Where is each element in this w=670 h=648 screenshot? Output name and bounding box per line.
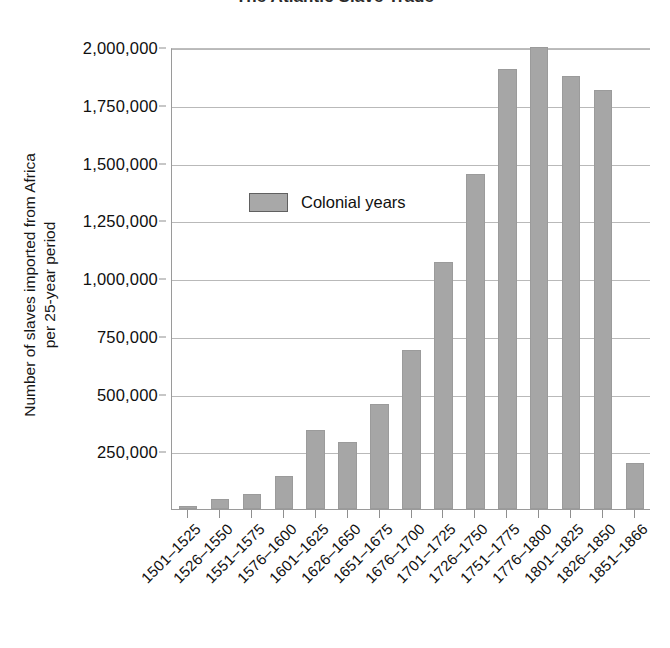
x-axis-tick-mark [634, 510, 635, 518]
x-axis-tick-mark [315, 510, 316, 518]
y-axis-tick-mark [159, 221, 166, 222]
chart-legend: Colonial years [249, 193, 406, 212]
y-axis-tick-mark [159, 452, 166, 453]
x-axis-tick-mark [442, 510, 443, 518]
x-axis-tick-mark [187, 510, 188, 518]
bar [466, 174, 485, 509]
y-axis-tick-label: 1,750,000 [83, 96, 158, 115]
bar [243, 494, 262, 509]
y-axis-tick-label: 500,000 [97, 385, 158, 404]
y-axis-tick-label: 1,000,000 [83, 270, 158, 289]
bar [306, 430, 325, 509]
x-axis-tick-mark [538, 510, 539, 518]
bar [594, 90, 613, 509]
x-axis-tick-mark [379, 510, 380, 518]
x-axis-tick-mark [570, 510, 571, 518]
bar [402, 350, 421, 509]
bar [179, 506, 198, 509]
y-axis-tick-mark [159, 279, 166, 280]
bar [275, 476, 294, 509]
x-axis-tick-mark [283, 510, 284, 518]
chart-title: The Atlantic Slave Trade [0, 0, 670, 7]
y-axis-tick-mark [159, 105, 166, 106]
y-axis-tick-label: 1,500,000 [83, 154, 158, 173]
x-axis-tick-mark [251, 510, 252, 518]
legend-swatch-colonial-years [249, 193, 288, 212]
legend-label-colonial-years: Colonial years [301, 193, 406, 212]
x-axis-tick-mark [411, 510, 412, 518]
x-axis-tick-mark [506, 510, 507, 518]
bar [338, 442, 357, 509]
y-axis-tick-label: 2,000,000 [83, 39, 158, 58]
x-axis-tick-mark [219, 510, 220, 518]
bar-series [172, 49, 650, 509]
bar [370, 404, 389, 509]
plot-area [171, 48, 650, 510]
x-axis-tick-mark [347, 510, 348, 518]
bar [434, 262, 453, 509]
x-axis-tick-labels: 1501–15251526–15501551–15751576–16001601… [171, 520, 650, 640]
y-axis-tick-label: 750,000 [97, 327, 158, 346]
bar [562, 76, 581, 509]
chart-figure: The Atlantic Slave Trade Number of slave… [0, 0, 670, 648]
y-axis-tick-mark [159, 48, 166, 49]
bar [211, 499, 230, 509]
bar [626, 463, 645, 509]
y-axis-tick-mark [159, 163, 166, 164]
y-axis-tick-labels: 2,000,0001,750,0001,500,0001,250,0001,00… [0, 48, 166, 510]
y-axis-tick-mark [159, 336, 166, 337]
x-axis-tick-mark [602, 510, 603, 518]
x-axis-tick-mark [474, 510, 475, 518]
bar [498, 69, 517, 509]
y-axis-tick-label: 250,000 [97, 443, 158, 462]
y-axis-tick-label: 1,250,000 [83, 212, 158, 231]
y-axis-tick-mark [159, 394, 166, 395]
x-axis-tick-marks [171, 510, 650, 520]
bar [530, 47, 549, 509]
